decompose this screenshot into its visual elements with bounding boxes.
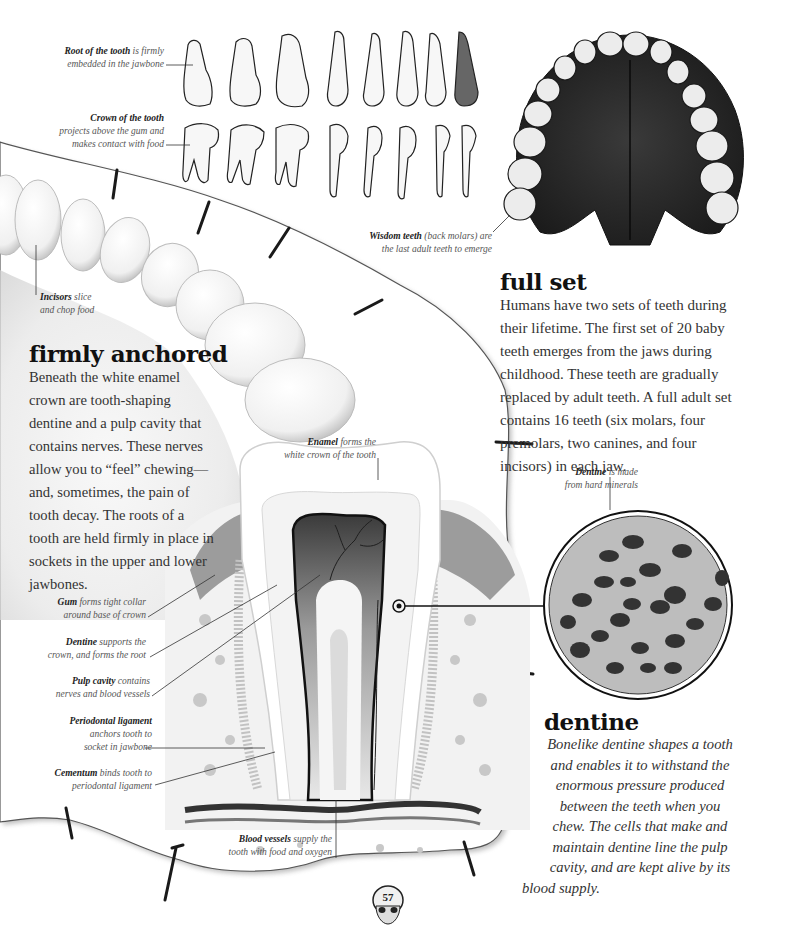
- caption-text: nerves and blood vessels: [56, 689, 150, 699]
- caption-text: tooth with food and oxygen: [229, 847, 332, 857]
- caption-text: is made: [606, 467, 638, 477]
- extracted-teeth-row-upper: [184, 31, 478, 106]
- caption-text: periodontal ligament: [72, 781, 152, 791]
- body-line: cavity, and are kept alive by its: [520, 857, 760, 878]
- caption-text: embedded in the jawbone: [67, 59, 164, 69]
- caption-text: forms tight collar: [77, 597, 146, 607]
- caption-bold: Pulp cavity: [72, 676, 116, 686]
- body-line: between the teeth when you: [520, 796, 760, 817]
- caption-text: around base of crown: [64, 610, 146, 620]
- caption-bold: Dentine: [66, 637, 97, 647]
- label-enamel: Enamel forms the white crown of the toot…: [258, 436, 376, 462]
- label-gum: Gum forms tight collar around base of cr…: [26, 596, 146, 622]
- label-periodontal-ligament: Periodontal ligament anchors tooth to so…: [16, 715, 152, 754]
- caption-bold: Blood vessels: [239, 834, 291, 844]
- extracted-teeth-row-lower: [183, 124, 476, 199]
- caption-bold: Incisors: [40, 292, 72, 302]
- caption-wisdom-teeth: Wisdom teeth (back molars) are the last …: [330, 230, 492, 256]
- caption-text: white crown of the tooth: [284, 450, 376, 460]
- caption-text: anchors tooth to: [90, 729, 152, 739]
- caption-text: slice: [72, 292, 92, 302]
- body-dentine: Bonelike dentine shapes a tooth and enab…: [520, 734, 760, 898]
- caption-text: forms the: [338, 437, 376, 447]
- caption-bold: Dentine: [575, 467, 606, 477]
- page-number-badge: 57: [372, 886, 404, 926]
- heading-full-set: full set: [500, 268, 586, 295]
- caption-crown-of-tooth: Crown of the tooth projects above the gu…: [20, 112, 164, 151]
- body-line: and enables it to withstand the: [520, 755, 760, 776]
- body-line: Bonelike dentine shapes a tooth: [520, 734, 760, 755]
- caption-text: contains: [115, 676, 150, 686]
- caption-bold: Root of the tooth: [65, 46, 131, 56]
- caption-text: is firmly: [130, 46, 164, 56]
- caption-text: crown, and forms the root: [48, 650, 146, 660]
- caption-bold: Crown of the tooth: [90, 113, 164, 123]
- caption-text: (back molars) are: [422, 231, 492, 241]
- dentine-micrograph: [544, 511, 732, 699]
- caption-text: projects above the gum and: [59, 126, 164, 136]
- label-dentine-inset: Dentine is made from hard minerals: [540, 466, 638, 492]
- label-cementum: Cementum binds tooth to periodontal liga…: [16, 767, 152, 793]
- caption-root-of-tooth: Root of the tooth is firmly embedded in …: [20, 45, 164, 71]
- label-pulp-cavity: Pulp cavity contains nerves and blood ve…: [16, 675, 150, 701]
- body-firmly-anchored: Beneath the white enamel crown are tooth…: [29, 366, 217, 596]
- body-line: maintain dentine line the pulp: [520, 837, 760, 858]
- caption-text: and chop food: [40, 305, 94, 315]
- heading-dentine: dentine: [544, 708, 639, 735]
- caption-text: supports the: [97, 637, 146, 647]
- caption-incisors: Incisors slice and chop food: [40, 291, 120, 317]
- page-number: 57: [372, 891, 404, 903]
- caption-text: makes contact with food: [72, 139, 164, 149]
- upper-jaw-palate: [504, 32, 743, 245]
- caption-text: from hard minerals: [565, 480, 638, 490]
- caption-text: socket in jawbone: [84, 742, 152, 752]
- caption-bold: Gum: [58, 597, 78, 607]
- caption-bold: Enamel: [307, 437, 338, 447]
- caption-text: binds tooth to: [97, 768, 152, 778]
- heading-firmly-anchored: firmly anchored: [29, 340, 227, 367]
- caption-bold: Periodontal ligament: [69, 716, 152, 726]
- body-line: enormous pressure produced: [520, 775, 760, 796]
- caption-bold: Wisdom teeth: [369, 231, 422, 241]
- caption-text: supply the: [291, 834, 332, 844]
- label-blood-vessels: Blood vessels supply the tooth with food…: [190, 833, 332, 859]
- body-line: blood supply.: [520, 878, 760, 899]
- caption-text: the last adult teeth to emerge: [382, 244, 492, 254]
- body-full-set: Humans have two sets of teeth during the…: [500, 294, 750, 478]
- label-dentine: Dentine supports the crown, and forms th…: [16, 636, 146, 662]
- body-line: chew. The cells that make and: [520, 816, 760, 837]
- caption-bold: Cementum: [55, 768, 98, 778]
